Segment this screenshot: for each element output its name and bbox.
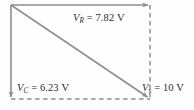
vr-label: VR = 7.82 V <box>73 13 125 24</box>
vc-symbol: V <box>17 82 24 93</box>
vr-value: 7.82 <box>96 12 115 23</box>
vc-value: 6.23 <box>40 82 59 93</box>
vr-symbol: V <box>73 12 80 23</box>
vc-label: VC = 6.23 V <box>17 83 69 94</box>
vs-subscript: s <box>149 87 152 95</box>
vr-unit: V <box>117 12 125 23</box>
phasor-diagram: VR = 7.82 V VC = 6.23 V Vs = 10 V <box>0 0 194 110</box>
vs-unit: V <box>176 82 184 93</box>
vs-symbol: V <box>142 82 149 93</box>
vs-label: Vs = 10 V <box>142 83 184 94</box>
vc-subscript: C <box>24 87 29 95</box>
vc-unit: V <box>61 82 69 93</box>
vr-subscript: R <box>80 17 85 25</box>
vs-value: 10 <box>163 82 174 93</box>
